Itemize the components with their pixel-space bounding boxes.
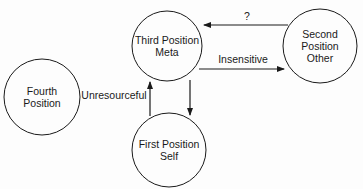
node-fourth-position-label: Fourth Position (23, 85, 60, 109)
edge-first-to-third-label: Unresourceful (81, 89, 146, 101)
perceptual-positions-diagram: Third Position Meta Second Position Othe… (0, 0, 363, 189)
node-fourth-line1: Fourth (23, 85, 60, 97)
node-first-line2: Self (139, 150, 200, 162)
node-third-position-label: Third Position Meta (135, 34, 199, 58)
node-third-line1: Third Position (135, 34, 199, 46)
node-second-line1: Second (301, 28, 338, 40)
edge-third-to-second-label: Insensitive (218, 53, 268, 65)
edge-second-to-third-label: ? (244, 10, 250, 22)
node-fourth-line2: Position (23, 97, 60, 109)
node-third-line2: Meta (135, 46, 199, 58)
node-second-line2: Position (301, 40, 338, 52)
node-second-line3: Other (301, 52, 338, 64)
node-second-position-label: Second Position Other (301, 28, 338, 64)
node-first-position-label: First Position Self (139, 138, 200, 162)
node-first-line1: First Position (139, 138, 200, 150)
